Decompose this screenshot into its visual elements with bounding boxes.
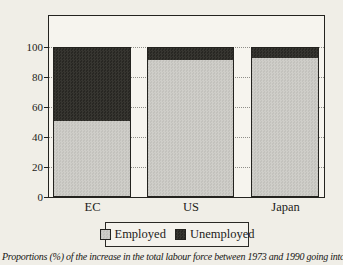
bar-segment-unemployed [252,48,318,58]
y-tick-label-80: 80 [0,70,43,84]
figure: EmployedUnemployed Proportions (%) of th… [0,0,343,265]
x-category-label-japan: Japan [271,200,299,215]
bar-segment-unemployed [54,48,130,121]
bar-segment-unemployed [148,48,233,60]
bar-japan [251,47,319,197]
bar-us [147,47,234,197]
y-tick-label-40: 40 [0,130,43,144]
y-tick-label-60: 60 [0,100,43,114]
x-category-label-us: US [183,200,199,215]
y-tick-mark-40 [44,137,48,138]
bar-segment-employed [54,121,130,196]
y-tick-mark-100 [44,47,48,48]
y-tick-mark-0 [44,197,48,198]
y-tick-label-100: 100 [0,40,43,54]
bar-segment-employed [148,60,233,196]
y-tick-mark-20 [44,167,48,168]
legend-label-employed: Employed [115,227,166,242]
legend-label-unemployed: Unemployed [190,227,255,242]
y-tick-label-0: 0 [0,190,43,204]
plot-area [48,15,325,198]
legend: EmployedUnemployed [105,222,249,247]
legend-item-employed: Employed [100,227,166,242]
legend-swatch-unemployed [175,229,186,240]
figure-caption: Proportions (%) of the increase in the t… [2,251,343,262]
bar-segment-employed [252,58,318,196]
legend-swatch-employed [100,229,111,240]
bar-ec [53,47,131,197]
y-tick-label-20: 20 [0,160,43,174]
y-tick-mark-80 [44,77,48,78]
y-tick-mark-60 [44,107,48,108]
legend-item-unemployed: Unemployed [175,227,255,242]
x-category-label-ec: EC [85,200,101,215]
